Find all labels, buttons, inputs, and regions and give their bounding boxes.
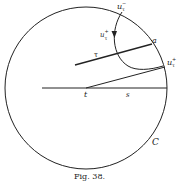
label-s: s xyxy=(126,91,130,99)
label-a: a xyxy=(152,36,157,45)
label-t: t xyxy=(84,90,88,99)
arrow-head-icon xyxy=(112,31,118,38)
svg-text:τ: τ xyxy=(122,6,125,12)
svg-text:τ: τ xyxy=(105,35,108,41)
label-u-tau-minus: u − τ xyxy=(117,0,126,12)
line-t-u-plus xyxy=(86,67,165,88)
svg-text:+: + xyxy=(172,56,176,62)
figure-caption: Fig. 38. xyxy=(74,172,105,181)
line-tau-a xyxy=(75,44,152,65)
svg-text:τ: τ xyxy=(172,62,175,68)
label-c: C xyxy=(152,137,159,147)
label-u-tau-plus-circle: u + τ xyxy=(167,56,176,69)
svg-text:+: + xyxy=(105,28,109,34)
svg-text:−: − xyxy=(122,0,126,6)
label-u-tau-plus-arc: u + τ xyxy=(100,28,109,41)
label-tau: τ xyxy=(94,51,98,59)
figure-38-diagram: u − τ u + τ a u + τ τ t s C Fig. 38. xyxy=(0,0,179,185)
